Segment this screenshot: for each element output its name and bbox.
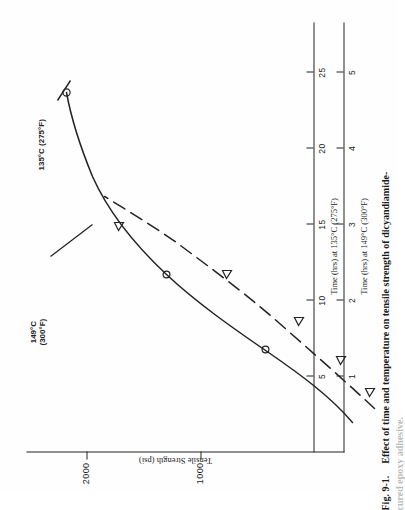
x-tick-label-primary-5: 5 <box>316 364 326 388</box>
curve-149c-leader <box>50 224 92 256</box>
datapoint-149c-3 <box>294 317 303 325</box>
y-axis-title: Tensile Strength (psi) <box>105 455 245 465</box>
x-tick-label-primary-20: 20 <box>316 136 326 160</box>
datapoint-135c-3 <box>62 88 69 95</box>
curve-label-135c: 135°C (275°F) <box>36 119 45 170</box>
x-tick-primary-25 <box>306 71 313 72</box>
y-tick-label-1000: 1000 <box>194 462 204 492</box>
curve-135c-end-tick <box>57 80 70 100</box>
datapoint-135c-2 <box>163 271 170 278</box>
x-tick-primary-5 <box>306 375 313 376</box>
x-tick-label-secondary-2: 2 <box>346 288 356 312</box>
figure-caption-line1: Effect of time and temperature on tensil… <box>379 171 390 463</box>
x-tick-label-primary-15: 15 <box>316 212 326 236</box>
x-axis-line-primary <box>313 22 314 452</box>
x-tick-label-primary-10: 10 <box>316 288 326 312</box>
x-tick-secondary-4 <box>336 147 343 148</box>
datapoint-149c-5 <box>114 222 123 230</box>
y-tick-label-2000: 2000 <box>80 462 90 492</box>
figure-caption: Fig. 9-1.Effect of time and temperature … <box>378 78 405 510</box>
x-axis-line-secondary <box>343 22 344 452</box>
curve-135c <box>66 92 352 422</box>
x-tick-primary-15 <box>306 223 313 224</box>
x-tick-primary-10 <box>306 299 313 300</box>
x-tick-secondary-2 <box>336 299 343 300</box>
x-axis-title-secondary: Time (hrs) at 149°C (300°F) <box>358 198 368 295</box>
curve-label-149c-line2: (300°F) <box>37 318 46 345</box>
figure-caption-line2: cured epoxy adhesive. <box>392 78 405 510</box>
figure-number: Fig. 9-1. <box>379 475 390 510</box>
x-tick-secondary-5 <box>336 71 343 72</box>
curve-label-149c: 149°C (300°F) <box>28 318 46 345</box>
x-tick-primary-20 <box>306 147 313 148</box>
x-tick-label-secondary-1: 1 <box>346 364 356 388</box>
x-axis-title-primary: Time (hrs) at 135°C (275°F) <box>328 198 338 295</box>
datapoint-135c-1 <box>262 346 269 353</box>
y-tick-2000 <box>86 451 87 459</box>
x-tick-label-primary-25: 25 <box>316 60 326 84</box>
x-tick-label-secondary-3: 3 <box>346 212 356 236</box>
datapoint-149c-4 <box>222 270 231 278</box>
x-tick-secondary-1 <box>336 375 343 376</box>
y-axis-line <box>26 451 344 452</box>
datapoint-149c-1 <box>365 388 374 396</box>
curve-label-149c-line1: 149°C <box>28 318 37 345</box>
x-tick-label-secondary-4: 4 <box>346 136 356 160</box>
x-tick-label-secondary-5: 5 <box>346 60 356 84</box>
